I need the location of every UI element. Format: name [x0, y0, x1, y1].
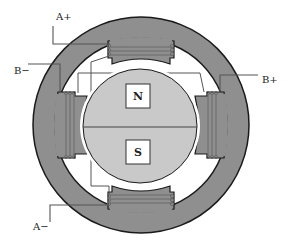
coil-left: [64, 91, 75, 158]
rotor: N S: [80, 66, 200, 186]
terminal-label-b-plus: B+: [262, 74, 278, 85]
terminal-label-b-minus: B−: [14, 65, 30, 76]
rotor-south-label: S: [134, 146, 142, 159]
coil-right: [206, 91, 217, 158]
stepper-motor-diagram: N S A+ B− B+ A−: [0, 0, 291, 249]
terminal-label-a-minus: A−: [32, 221, 49, 232]
rotor-north-label: N: [133, 90, 143, 103]
terminal-label-a-plus: A+: [55, 11, 72, 22]
